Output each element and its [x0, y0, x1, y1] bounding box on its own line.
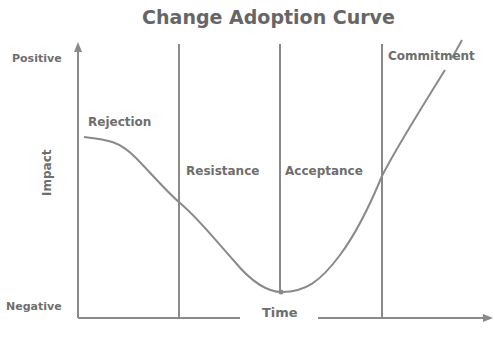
y-axis-top-label: Positive — [12, 52, 62, 65]
x-axis-arrow-icon — [483, 314, 493, 322]
y-axis-arrow-icon — [74, 42, 82, 52]
phase-label-resistance: Resistance — [186, 164, 259, 178]
minimum-point-marker — [279, 290, 284, 295]
adoption-curve — [84, 70, 445, 292]
x-axis-label: Time — [262, 305, 298, 320]
phase-label-rejection: Rejection — [88, 115, 151, 129]
phase-label-commitment: Commitment — [388, 49, 475, 63]
y-axis-bottom-label: Negative — [6, 300, 62, 313]
phase-label-acceptance: Acceptance — [285, 164, 363, 178]
y-axis-label: Impact — [40, 149, 54, 196]
